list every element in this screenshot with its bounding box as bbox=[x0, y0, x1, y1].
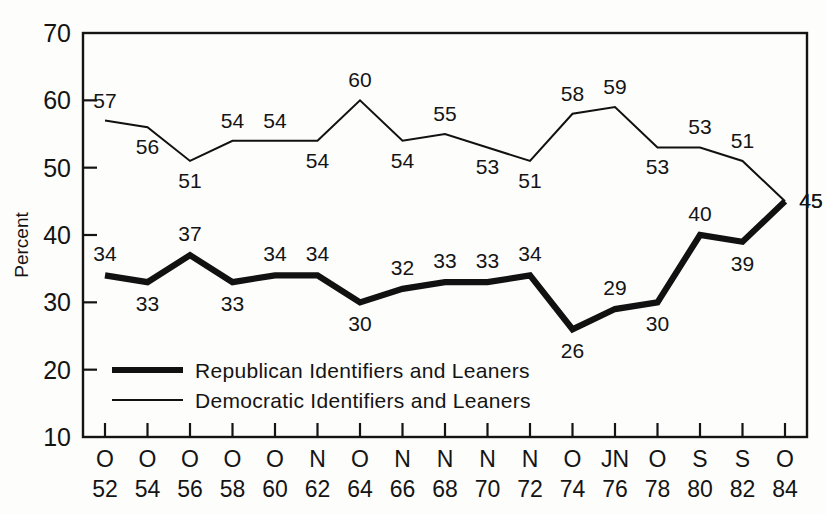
x-tick-year-70: 70 bbox=[475, 476, 501, 502]
x-tick-month-68: N bbox=[437, 446, 454, 472]
democratic-value-label-74: 58 bbox=[561, 82, 584, 105]
x-tick-year-74: 74 bbox=[560, 476, 586, 502]
x-tick-month-54: O bbox=[139, 446, 157, 472]
democratic-value-label-52: 57 bbox=[93, 89, 116, 112]
x-tick-month-52: O bbox=[96, 446, 114, 472]
republican-point-labels: 3433373334343032333334262930403945 bbox=[93, 189, 822, 362]
republican-value-label-72: 34 bbox=[518, 242, 542, 265]
democratic-point-labels: 5756515454546054555351585953535145 bbox=[93, 68, 822, 212]
x-tick-year-78: 78 bbox=[645, 476, 671, 502]
republican-value-label-84: 45 bbox=[799, 189, 822, 212]
x-tick-month-66: N bbox=[394, 446, 411, 472]
democratic-value-label-82: 51 bbox=[731, 129, 754, 152]
democratic-value-label-72: 51 bbox=[518, 169, 541, 192]
party-identification-line-chart: 70605040302010 O52O54O56O58O60N62O64N66N… bbox=[0, 0, 827, 514]
x-tick-year-80: 80 bbox=[687, 476, 713, 502]
x-tick-month-72: N bbox=[522, 446, 539, 472]
democratic-value-label-54: 56 bbox=[136, 135, 159, 158]
x-tick-year-76: 76 bbox=[602, 476, 628, 502]
y-axis: 70605040302010 bbox=[43, 19, 97, 451]
democratic-value-label-68: 55 bbox=[433, 102, 456, 125]
x-tick-month-82: S bbox=[735, 446, 750, 472]
republican-value-label-60: 34 bbox=[263, 242, 287, 265]
democratic-value-label-64: 60 bbox=[348, 68, 371, 91]
x-tick-year-62: 62 bbox=[305, 476, 331, 502]
x-tick-year-66: 66 bbox=[390, 476, 416, 502]
democratic-value-label-62: 54 bbox=[306, 149, 330, 172]
x-tick-year-84: 84 bbox=[772, 476, 798, 502]
x-tick-month-56: O bbox=[181, 446, 199, 472]
republican-value-label-56: 37 bbox=[178, 222, 201, 245]
x-tick-month-60: O bbox=[266, 446, 284, 472]
y-tick-label-70: 70 bbox=[43, 19, 71, 47]
republican-value-label-70: 33 bbox=[476, 249, 499, 272]
y-axis-title: Percent bbox=[11, 212, 32, 278]
republican-value-label-74: 26 bbox=[561, 339, 584, 362]
republican-value-label-80: 40 bbox=[688, 202, 711, 225]
republican-value-label-58: 33 bbox=[221, 292, 244, 315]
x-tick-month-64: O bbox=[351, 446, 369, 472]
x-tick-month-58: O bbox=[224, 446, 242, 472]
y-tick-label-30: 30 bbox=[43, 288, 71, 316]
republican-value-label-64: 30 bbox=[348, 312, 371, 335]
x-tick-month-74: O bbox=[564, 446, 582, 472]
y-tick-label-20: 20 bbox=[43, 356, 71, 384]
republican-value-label-76: 29 bbox=[603, 276, 626, 299]
republican-value-label-68: 33 bbox=[433, 249, 456, 272]
republican-value-label-66: 32 bbox=[391, 256, 414, 279]
democratic-value-label-60: 54 bbox=[263, 109, 287, 132]
x-tick-month-80: S bbox=[692, 446, 707, 472]
x-tick-year-52: 52 bbox=[92, 476, 118, 502]
democratic-value-label-70: 53 bbox=[476, 155, 499, 178]
democratic-value-label-78: 53 bbox=[646, 155, 669, 178]
x-tick-month-78: O bbox=[649, 446, 667, 472]
republican-value-label-54: 33 bbox=[136, 292, 159, 315]
x-tick-year-56: 56 bbox=[177, 476, 203, 502]
x-tick-month-70: N bbox=[479, 446, 496, 472]
democratic-value-label-56: 51 bbox=[178, 169, 201, 192]
x-tick-year-60: 60 bbox=[262, 476, 288, 502]
republican-value-label-52: 34 bbox=[93, 242, 117, 265]
x-tick-month-76: JN bbox=[601, 446, 629, 472]
x-tick-year-54: 54 bbox=[135, 476, 161, 502]
democratic-value-label-58: 54 bbox=[221, 109, 245, 132]
democratic-value-label-76: 59 bbox=[603, 75, 626, 98]
x-tick-month-62: N bbox=[309, 446, 326, 472]
y-tick-label-40: 40 bbox=[43, 221, 71, 249]
x-axis: O52O54O56O58O60N62O64N66N68N70N72O74JN76… bbox=[92, 423, 798, 502]
y-tick-label-10: 10 bbox=[43, 423, 71, 451]
legend: Republican Identifiers and Leaners Democ… bbox=[112, 359, 531, 412]
democratic-value-label-66: 54 bbox=[391, 149, 415, 172]
republican-value-label-78: 30 bbox=[646, 312, 669, 335]
republican-value-label-62: 34 bbox=[306, 242, 330, 265]
x-tick-year-58: 58 bbox=[220, 476, 246, 502]
democratic-value-label-80: 53 bbox=[688, 115, 711, 138]
legend-label-republican: Republican Identifiers and Leaners bbox=[195, 359, 530, 382]
x-tick-month-84: O bbox=[776, 446, 794, 472]
chart-page: 70605040302010 O52O54O56O58O60N62O64N66N… bbox=[0, 0, 827, 514]
republican-value-label-82: 39 bbox=[731, 252, 754, 275]
y-tick-label-60: 60 bbox=[43, 86, 71, 114]
x-tick-year-72: 72 bbox=[517, 476, 543, 502]
legend-label-democratic: Democratic Identifiers and Leaners bbox=[195, 389, 531, 412]
y-tick-label-50: 50 bbox=[43, 154, 71, 182]
x-tick-year-64: 64 bbox=[347, 476, 373, 502]
x-tick-year-68: 68 bbox=[432, 476, 458, 502]
x-tick-year-82: 82 bbox=[730, 476, 756, 502]
